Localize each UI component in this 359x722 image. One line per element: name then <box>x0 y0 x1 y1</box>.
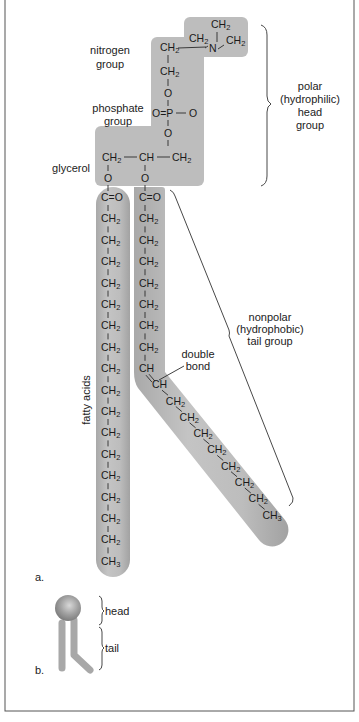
svg-text:group: group <box>96 58 124 70</box>
label-nitrogen-group: nitrogen group <box>90 44 130 70</box>
svg-text:polar: polar <box>298 80 323 92</box>
head-bracket <box>261 25 271 186</box>
svg-text:nitrogen: nitrogen <box>90 44 130 56</box>
svg-text:(hydrophilic): (hydrophilic) <box>280 93 340 105</box>
chain-unit: C=O <box>101 191 123 203</box>
panel-b-label: b. <box>35 664 44 676</box>
svg-text:O: O <box>164 127 172 139</box>
svg-text:bond: bond <box>186 360 210 372</box>
label-glycerol: glycerol <box>52 162 90 174</box>
label-phosphate-group: phosphate group <box>92 102 143 127</box>
label-polar-head: polar (hydrophilic) head group <box>280 80 340 131</box>
svg-text:tail group: tail group <box>247 335 292 347</box>
svg-text:O: O <box>164 87 172 99</box>
chain-unit: C=O <box>139 191 161 203</box>
svg-text:N: N <box>209 42 217 54</box>
svg-text:group: group <box>104 115 132 127</box>
chain-unit: CH2 <box>235 476 254 490</box>
schematic-head-ball <box>55 595 81 621</box>
label-fatty-acids: fatty acids <box>80 375 92 425</box>
svg-text:O: O <box>189 107 197 119</box>
svg-text:double: double <box>181 348 214 360</box>
label-nonpolar-tail: nonpolar (hydrophobic) tail group <box>236 311 303 347</box>
svg-text:CH: CH <box>139 151 154 163</box>
svg-text:(hydrophobic): (hydrophobic) <box>236 323 303 335</box>
label-tail: tail <box>105 642 119 654</box>
phospholipid-diagram: CH2 CH2 CH2 N CH2 CH2 O O=P O O CH2 CH C… <box>0 0 359 722</box>
svg-text:phosphate: phosphate <box>92 102 143 114</box>
chain-unit: CH <box>139 362 154 374</box>
svg-text:head: head <box>298 106 322 118</box>
svg-text:O=P: O=P <box>152 107 173 119</box>
label-double-bond: double bond <box>159 348 215 380</box>
chain-unit: CH2 <box>249 492 268 506</box>
svg-text:O: O <box>141 172 149 184</box>
svg-text:group: group <box>296 119 324 131</box>
schematic-phospholipid: head tail <box>55 595 129 670</box>
label-head: head <box>105 605 129 617</box>
chain-unit: CH3 <box>262 509 281 523</box>
svg-text:O: O <box>104 172 112 184</box>
svg-text:nonpolar: nonpolar <box>249 311 292 323</box>
panel-a-label: a. <box>35 571 44 583</box>
